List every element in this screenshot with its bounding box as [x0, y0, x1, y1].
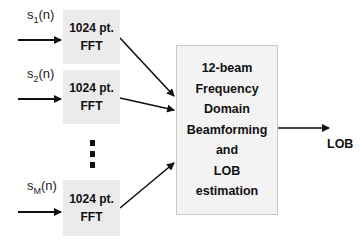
beamforming-label-line: Beamforming	[187, 120, 268, 141]
output-label: LOB	[327, 137, 353, 151]
beamforming-label-line: LOB	[214, 161, 240, 182]
fft-block-2: 1024 pt. FFT	[63, 70, 120, 124]
fft-block-1: 1024 pt. FFT	[63, 10, 120, 64]
fft-block-label: 1024 pt.	[69, 79, 114, 97]
fft-block-label: FFT	[81, 208, 103, 226]
ellipsis-dot	[90, 140, 95, 146]
fft1-to-main-arrow	[120, 38, 174, 96]
ellipsis-dot	[90, 162, 95, 168]
fft-block-label: FFT	[81, 97, 103, 115]
beamforming-label-line: and	[216, 140, 238, 161]
signal-label-m: sM(n)	[27, 178, 57, 196]
fftm-to-main-arrow	[120, 163, 174, 208]
fft-block-m: 1024 pt. FFT	[63, 180, 120, 236]
fft-block-label: FFT	[81, 37, 103, 55]
fft2-to-main-arrow	[120, 98, 174, 110]
beamforming-label-line: Domain	[204, 99, 250, 120]
fft-block-label: 1024 pt.	[69, 19, 114, 37]
beamforming-label-line: Frequency	[195, 79, 258, 100]
signal-label-2: s2(n)	[27, 66, 54, 84]
beamforming-block: 12-beam Frequency Domain Beamforming and…	[176, 45, 278, 215]
beamforming-label-line: estimation	[196, 181, 259, 202]
beamforming-label-line: 12-beam	[202, 58, 253, 79]
ellipsis-dot	[90, 151, 95, 157]
signal-label-1: s1(n)	[27, 7, 54, 25]
fft-block-label: 1024 pt.	[69, 190, 114, 208]
